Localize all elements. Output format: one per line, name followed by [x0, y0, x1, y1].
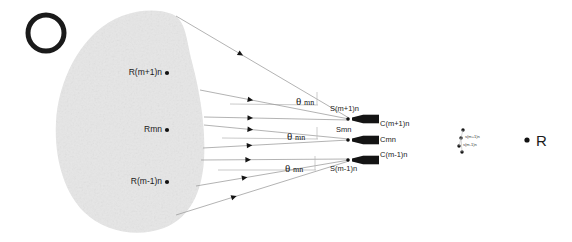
ray-arrowhead	[247, 143, 253, 149]
scatter-point-label: R(m+1)n	[105, 68, 162, 77]
detector-source-label: S(m+1)n	[330, 105, 359, 113]
scatter-ray	[176, 16, 349, 118]
far-cluster-dots	[457, 128, 464, 153]
far-cluster-label: s(m+1)n	[465, 135, 480, 139]
theta-symbol: θ	[296, 95, 301, 107]
scatter-ray	[204, 117, 349, 120]
scatter-angle-label: θ mn	[296, 96, 314, 107]
detector-source-label: S(m-1)n	[330, 165, 357, 173]
reference-point-label: R	[536, 133, 547, 148]
detector-entry-dot	[346, 117, 350, 121]
theta-symbol: θ	[285, 162, 290, 174]
ray-arrowhead	[247, 97, 254, 103]
scatter-ray	[204, 125, 349, 139]
ray-arrowhead	[247, 127, 253, 133]
reference-point-dot	[524, 137, 529, 142]
detector-cone	[352, 156, 363, 165]
ray-arrowhead	[247, 115, 253, 121]
scatter-ray	[201, 159, 349, 160]
detector-crystal-label: C(m+1)n	[380, 120, 409, 128]
detector-body	[363, 115, 379, 124]
theta-subscript: mn	[304, 98, 314, 107]
detector-source-label: Smn	[336, 126, 351, 134]
scatter-point-dot	[165, 71, 169, 75]
theta-symbol: θ	[287, 130, 292, 142]
theta-subscript: mn	[293, 165, 303, 174]
scatter-point-label: Rmn	[105, 125, 162, 134]
scatter-ray	[196, 160, 349, 186]
scatter-angle-label: θ mn	[287, 131, 305, 142]
ray-arrowhead	[245, 157, 251, 162]
figure-canvas: R(m+1)nRmnR(m-1)nS(m+1)nC(m+1)nSmnCmnS(m…	[0, 0, 572, 242]
ray-arrowhead	[237, 50, 245, 57]
detector-cone	[352, 136, 363, 145]
ray-arrowhead	[241, 175, 247, 181]
scatter-angle-label: θ mn	[285, 163, 303, 174]
tissue-blob	[56, 11, 205, 233]
far-cluster-label: s(m-1)n	[463, 143, 477, 147]
far-cluster-connector	[461, 138, 462, 152]
scatter-point-dot	[165, 128, 169, 132]
open-circle-source-icon	[28, 15, 64, 51]
scatter-point-label: R(m-1)n	[105, 177, 162, 186]
diagram-svg	[0, 0, 572, 242]
ray-arrowheads	[231, 50, 254, 200]
theta-subscript: mn	[295, 133, 305, 142]
detector-body	[363, 136, 379, 145]
detector-body	[363, 156, 379, 165]
angle-tick-marks	[315, 92, 317, 170]
detector-crystal-label: Cmn	[380, 136, 396, 144]
detector-glyphs	[346, 115, 379, 165]
scatter-ray	[203, 140, 349, 148]
detector-cone	[352, 115, 363, 124]
detector-crystal-label: C(m-1)n	[380, 151, 408, 159]
detector-entry-dot	[346, 158, 350, 162]
detector-entry-dot	[346, 138, 350, 142]
scatter-point-dot	[165, 180, 169, 184]
ray-arrowhead	[231, 193, 238, 200]
